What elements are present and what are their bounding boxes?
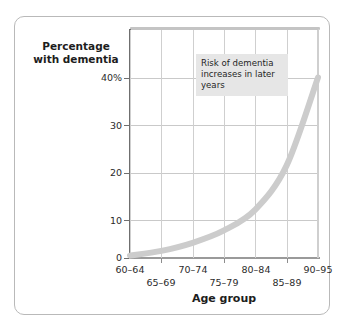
x-tick-75-79 — [224, 258, 225, 263]
y-tick-label-40: 40% — [101, 73, 122, 83]
risk-curve-path — [130, 78, 318, 256]
y-tick-label-20: 20 — [110, 168, 122, 178]
y-tick-10 — [124, 220, 129, 221]
x-axis-title: Age group — [130, 292, 318, 305]
x-tick-label-65-69: 65–69 — [141, 277, 181, 288]
y-tick-20 — [124, 173, 129, 174]
x-tick-label-60-64: 60–64 — [110, 264, 150, 275]
annotation-callout: Risk of dementia increases in later year… — [196, 54, 288, 96]
y-tick-30 — [124, 125, 129, 126]
y-tick-40 — [124, 78, 129, 79]
y-tick-label-30: 30 — [110, 121, 122, 131]
x-tick-label-80-84: 80–84 — [236, 264, 276, 275]
figure-container: Percentage with dementia 40% 30 20 10 — [0, 0, 346, 333]
x-tick-65-69 — [161, 258, 162, 263]
x-tick-label-85-89: 85–89 — [267, 277, 307, 288]
x-tick-label-75-79: 75–79 — [204, 277, 244, 288]
y-tick-label-10: 10 — [110, 216, 122, 226]
y-tick-0 — [124, 258, 129, 259]
y-tick-label-0: 0 — [116, 253, 122, 263]
x-tick-label-70-74: 70–74 — [173, 264, 213, 275]
y-tick-labels: 40% 30 20 10 0 — [74, 0, 122, 333]
plot-right-edge — [318, 29, 319, 258]
x-tick-label-90-95: 90–95 — [298, 264, 338, 275]
x-tick-85-89 — [287, 258, 288, 263]
